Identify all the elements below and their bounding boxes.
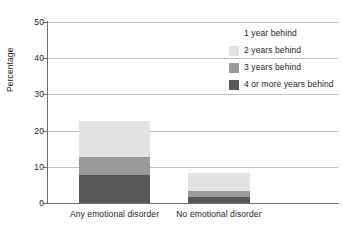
legend-item-label: 1 year behind <box>244 28 297 39</box>
bar-segment[interactable] <box>79 175 150 203</box>
bar-group[interactable] <box>79 22 150 203</box>
y-axis-tick-label: 50 <box>34 18 44 27</box>
y-axis-tick-label: 10 <box>34 163 44 172</box>
stacked-bar[interactable] <box>79 121 150 203</box>
y-axis-tick-label: 30 <box>34 90 44 99</box>
legend-item[interactable]: 3 years behind <box>229 60 341 76</box>
legend-item-label: 2 years behind <box>244 45 301 56</box>
legend-swatch-icon <box>229 63 239 73</box>
bar-segment[interactable] <box>79 157 150 175</box>
legend-swatch-icon <box>229 46 239 56</box>
x-axis-category-label: No emotional disorder <box>149 209 289 219</box>
legend-item[interactable]: 2 years behind <box>229 43 341 59</box>
legend-swatch-icon <box>229 80 239 90</box>
stacked-bar[interactable] <box>188 173 250 203</box>
bar-segment[interactable] <box>79 121 150 157</box>
bar-segment[interactable] <box>188 191 250 196</box>
stacked-bar-chart: 50403020100 Percentage Any emotional dis… <box>0 0 343 231</box>
y-axis-tick-label: 40 <box>34 54 44 63</box>
y-axis-tick-label: 20 <box>34 127 44 136</box>
y-axis-tick-label: 0 <box>39 199 44 208</box>
legend-item-label: 4 or more years behind <box>244 79 334 90</box>
bar-segment[interactable] <box>188 197 250 203</box>
y-axis-title: Percentage <box>6 48 15 92</box>
legend-item[interactable]: 1 year behind <box>229 26 341 42</box>
legend-item-label: 3 years behind <box>244 62 301 73</box>
legend-swatch-icon <box>229 29 239 39</box>
chart-legend: 1 year behind2 years behind3 years behin… <box>229 26 341 94</box>
legend-item[interactable]: 4 or more years behind <box>229 77 341 93</box>
bar-segment[interactable] <box>188 173 250 191</box>
x-axis-line <box>47 203 339 204</box>
